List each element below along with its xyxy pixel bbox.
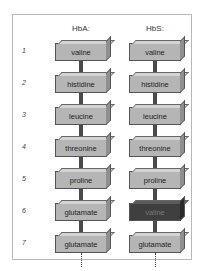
amino-acid-box: valine — [129, 43, 181, 61]
amino-acid-box: valine — [129, 203, 181, 221]
amino-acid-box: glutamate — [55, 235, 107, 253]
position-number: 3 — [20, 111, 28, 118]
amino-acid-box: histidine — [129, 75, 181, 93]
position-number: 6 — [20, 207, 28, 214]
position-number: 1 — [20, 47, 28, 54]
amino-acid-box: glutamate — [129, 235, 181, 253]
position-number: 5 — [20, 175, 28, 182]
position-number: 2 — [20, 79, 28, 86]
amino-acid-box: valine — [55, 43, 107, 61]
position-number: 7 — [20, 239, 28, 246]
amino-acid-box: proline — [129, 171, 181, 189]
continuation-dots — [155, 253, 156, 267]
amino-acid-box: leucine — [55, 107, 107, 125]
amino-acid-box: glutamate — [55, 203, 107, 221]
amino-acid-box: threonine — [55, 139, 107, 157]
amino-acid-box: leucine — [129, 107, 181, 125]
column-header: HbA: — [51, 24, 111, 33]
continuation-dots — [81, 253, 82, 267]
amino-acid-box: histidine — [55, 75, 107, 93]
position-number: 4 — [20, 143, 28, 150]
amino-acid-box: threonine — [129, 139, 181, 157]
column-header: HbS: — [125, 24, 185, 33]
amino-acid-box: proline — [55, 171, 107, 189]
